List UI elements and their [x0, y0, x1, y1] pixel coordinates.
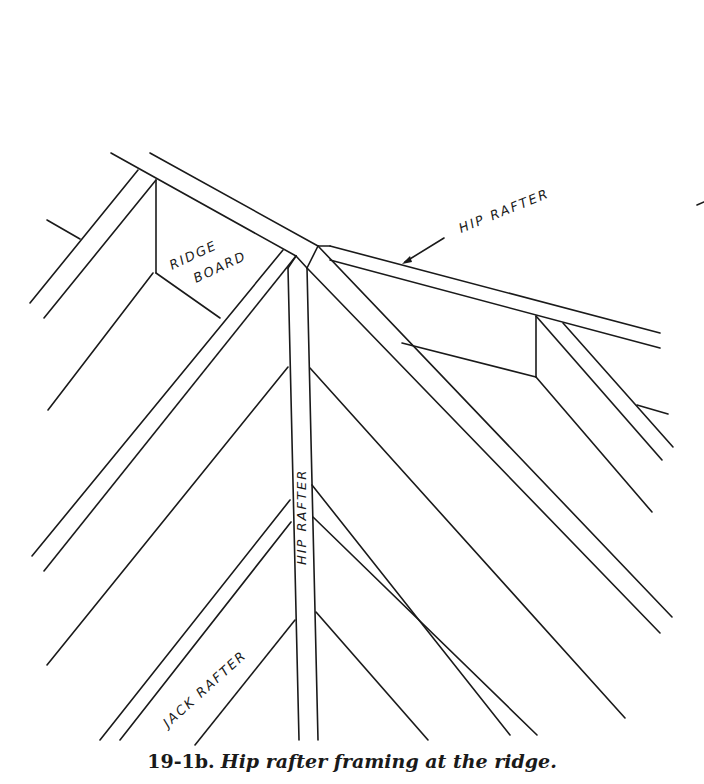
ridge-board: [111, 153, 318, 318]
hip-rafter-framing-drawing: RIDGE BOARD HIP RAFTER HIP RAFTER JACK R…: [0, 0, 704, 784]
jack-rafters-left: [100, 500, 295, 745]
right-diagonal-rafters: [307, 246, 672, 718]
edge-tick: [697, 202, 704, 205]
right-box: [402, 316, 673, 512]
hip-rafter-arrow: [402, 238, 444, 264]
figure-number: 19-1b.: [147, 750, 214, 772]
jack-rafter-label: JACK RAFTER: [158, 647, 250, 732]
common-rafter-left: [30, 170, 156, 410]
jack-rafters-right: [312, 485, 537, 740]
figure-caption: 19-1b. Hip rafter framing at the ridge.: [0, 750, 704, 772]
figure-page: RIDGE BOARD HIP RAFTER HIP RAFTER JACK R…: [0, 0, 704, 784]
hip-rafter-top-label: HIP RAFTER: [457, 186, 552, 236]
hip-rafter-vertical-label: HIP RAFTER: [294, 469, 309, 565]
left-hip-diagonal: [32, 250, 296, 665]
figure-caption-text: Hip rafter framing at the ridge.: [221, 750, 557, 772]
